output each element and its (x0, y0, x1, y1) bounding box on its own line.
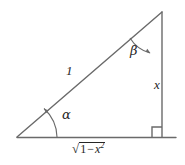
adjacent-side-label: √ 1−x2 (72, 142, 105, 156)
right-angle-marker (152, 127, 162, 137)
radicand-operator: − (86, 142, 95, 156)
angle-beta-label: β (130, 44, 138, 57)
opposite-side-label: x (154, 78, 160, 91)
angle-alpha-label: α (62, 108, 71, 121)
radical-sign-icon: √ (72, 142, 79, 155)
hypotenuse-label: 1 (66, 64, 73, 77)
radicand-exponent: 2 (100, 141, 104, 150)
radicand-group: 1−x2 (79, 142, 105, 156)
triangle-diagram: 1 x α β √ 1−x2 (0, 0, 185, 165)
hypotenuse-line (17, 12, 162, 137)
